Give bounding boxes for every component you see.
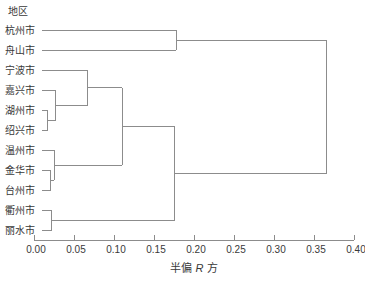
leaf-label: 温州市 xyxy=(5,144,35,156)
x-axis-tick-label: 0.05 xyxy=(66,244,86,255)
x-axis-tick-label: 0.00 xyxy=(26,244,46,255)
x-axis-tick-label: 0.25 xyxy=(226,244,246,255)
x-axis-tick-label: 0.10 xyxy=(106,244,126,255)
leaf-axis-title: 地区 xyxy=(8,5,28,17)
leaf-label: 宁波市 xyxy=(5,64,35,76)
x-axis-tick-label: 0.40 xyxy=(346,244,365,255)
dendrogram-chart: 地区杭州市舟山市宁波市嘉兴市湖州市绍兴市温州市金华市台州市衢州市丽水市0.000… xyxy=(0,0,365,282)
leaf-label: 衢州市 xyxy=(5,204,35,216)
leaf-label: 金华市 xyxy=(5,164,35,176)
x-axis-tick-label: 0.20 xyxy=(186,244,206,255)
leaf-label: 杭州市 xyxy=(5,24,35,36)
x-axis-tick-label: 0.35 xyxy=(306,244,326,255)
leaf-label: 台州市 xyxy=(5,184,35,196)
leaf-label: 嘉兴市 xyxy=(5,84,35,96)
x-axis-tick-label: 0.30 xyxy=(266,244,286,255)
leaf-label: 湖州市 xyxy=(5,104,35,116)
dendrogram-figure: 地区杭州市舟山市宁波市嘉兴市湖州市绍兴市温州市金华市台州市衢州市丽水市0.000… xyxy=(0,0,365,282)
x-axis-title: 半偏 R 方 xyxy=(170,261,217,274)
leaf-label: 舟山市 xyxy=(5,44,35,56)
leaf-label: 丽水市 xyxy=(5,224,35,236)
leaf-label: 绍兴市 xyxy=(5,124,35,136)
x-axis-tick-label: 0.15 xyxy=(146,244,166,255)
